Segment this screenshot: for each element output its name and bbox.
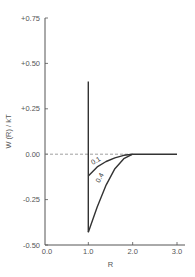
y-tick-label: -0.50 [23, 241, 40, 250]
y-tick-label: 0.00 [25, 150, 40, 159]
curve-label-0-1: 0.1 [90, 155, 102, 166]
y-tick-label: +0.75 [21, 14, 40, 23]
x-tick-label: 3.0 [172, 247, 182, 256]
series-group [45, 82, 177, 233]
y-axis-title: W (R) / kT [4, 114, 13, 149]
x-tick-label: 1.0 [83, 247, 93, 256]
y-tick-label: -0.25 [23, 195, 40, 204]
y-tick-label: +0.25 [21, 104, 40, 113]
potential-chart: +0.75+0.50+0.250.00-0.25-0.500.01.02.03.… [0, 0, 195, 277]
curve-label-0-4: 0.4 [94, 172, 105, 184]
x-tick-label: 0.0 [42, 247, 52, 256]
x-tick-label: 2.0 [127, 247, 137, 256]
y-tick-label: +0.50 [21, 59, 40, 68]
labels: RW (R) / kT0.10.4 [4, 114, 114, 269]
axes [45, 18, 185, 245]
x-axis-title: R [108, 260, 114, 269]
series-0-4 [88, 154, 132, 232]
